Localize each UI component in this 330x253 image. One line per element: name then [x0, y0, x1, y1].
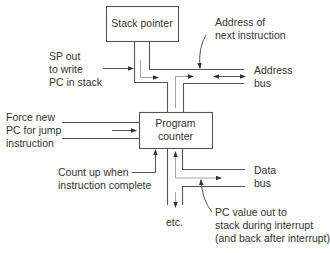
sp-out-line1: SP out — [49, 50, 102, 63]
count-up-line1: Count up when — [58, 166, 151, 179]
force-new-pc-line2: PC for jump — [6, 124, 61, 137]
address-bus-label: Address bus — [254, 64, 293, 90]
program-counter-text-line1: Program — [139, 117, 212, 130]
program-counter-label: Program counter — [139, 117, 212, 143]
address-next-line1: Address of — [215, 16, 286, 29]
data-bus-line2: bus — [254, 177, 276, 190]
stack-pointer-label: Stack pointer — [106, 17, 178, 30]
data-bus-line1: Data — [254, 164, 276, 177]
address-next-annotation: Address of next instruction — [215, 16, 286, 42]
sp-out-annotation: SP out to write PC in stack — [49, 50, 102, 89]
count-up-line2: instruction complete — [58, 179, 151, 192]
pc-value-out-line3: (and back after interrupt) — [215, 232, 330, 245]
program-counter-text-line2: counter — [139, 130, 212, 143]
force-new-pc-annotation: Force new PC for jump instruction — [6, 111, 61, 150]
force-new-pc-line1: Force new — [6, 111, 61, 124]
pc-value-out-line2: stack during interrupt — [215, 219, 330, 232]
pc-value-out-line1: PC value out to — [215, 206, 330, 219]
etc-text: etc. — [166, 216, 183, 228]
address-next-line2: next instruction — [215, 29, 286, 42]
data-bus-label: Data bus — [254, 164, 276, 190]
etc-label: etc. — [166, 216, 183, 229]
address-bus-line2: bus — [254, 77, 293, 90]
force-new-pc-line3: instruction — [6, 137, 61, 150]
program-counter-diagram: Stack pointer Program counter SP out to … — [0, 0, 330, 253]
sp-out-line2: to write — [49, 63, 102, 76]
sp-out-line3: PC in stack — [49, 76, 102, 89]
pc-value-out-annotation: PC value out to stack during interrupt (… — [215, 206, 330, 245]
stack-pointer-text: Stack pointer — [111, 17, 172, 29]
count-up-annotation: Count up when instruction complete — [58, 166, 151, 192]
address-bus-line1: Address — [254, 64, 293, 77]
